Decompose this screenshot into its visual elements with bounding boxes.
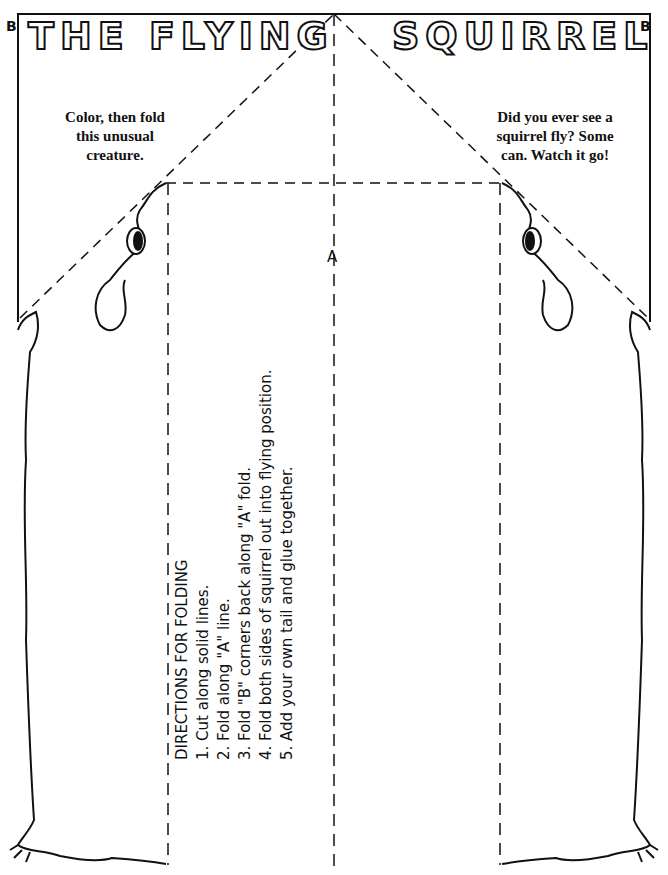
fold-label-a: A — [327, 248, 337, 266]
direction-step: 1. Cut along solid lines. — [193, 370, 214, 760]
directions-heading: DIRECTIONS FOR FOLDING — [172, 370, 193, 760]
fold-line-right-diagonal — [334, 14, 648, 318]
direction-step: 4. Fold both sides of squirrel out into … — [256, 370, 277, 760]
fold-line-left-diagonal — [20, 14, 334, 318]
squirrel-right-half — [502, 183, 658, 864]
intro-note-right: Did you ever see a squirrel fly? Some ca… — [470, 108, 640, 165]
squirrel-left-half — [10, 183, 166, 864]
direction-step: 5. Add your own tail and glue together. — [277, 370, 298, 760]
title-right: SQUIRREL — [392, 14, 653, 58]
title-left: THE FLYING — [28, 14, 334, 58]
intro-note-left: Color, then fold this unusual creature. — [40, 108, 190, 165]
direction-step: 2. Fold along "A" line. — [214, 370, 235, 760]
folding-directions: DIRECTIONS FOR FOLDING 1. Cut along soli… — [172, 370, 298, 760]
corner-label-b-left: B — [6, 18, 17, 34]
direction-step: 3. Fold "B" corners back along "A" fold. — [235, 370, 256, 760]
